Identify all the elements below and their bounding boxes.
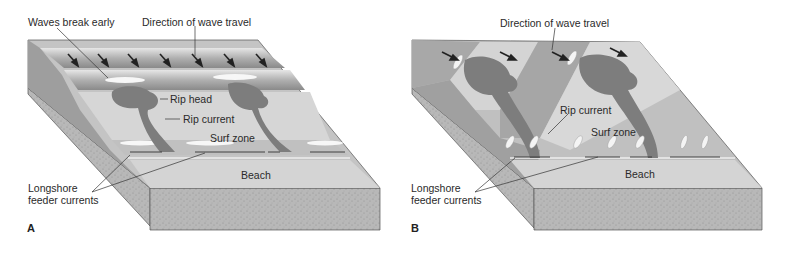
label-beach: Beach (241, 169, 271, 181)
panel-letter-a: A (27, 222, 35, 234)
label-longshore: Longshore (411, 182, 461, 194)
block-diagram-a (0, 0, 390, 254)
label-longshore: Longshore (28, 182, 78, 194)
block-diagram-b (390, 0, 787, 254)
label-rip-current: Rip current (183, 113, 234, 125)
label-rip-current: Rip current (560, 104, 611, 116)
label-surf-zone: Surf zone (591, 126, 636, 138)
panel-b-diagram: Direction of wave travel Rip current Sur… (390, 0, 787, 254)
label-feeder-currents: feeder currents (411, 194, 482, 206)
panel-letter-b: B (411, 222, 419, 234)
foam (105, 77, 145, 83)
label-waves-break-early: Waves break early (28, 16, 115, 28)
label-direction-of-wave-travel: Direction of wave travel (142, 16, 251, 28)
wave-band-2 (64, 70, 305, 90)
sand-front-face (534, 188, 762, 230)
label-beach: Beach (625, 168, 655, 180)
sand-front-face (150, 188, 380, 230)
label-surf-zone: Surf zone (210, 132, 255, 144)
label-feeder-currents: feeder currents (28, 194, 99, 206)
label-direction-of-wave-travel: Direction of wave travel (500, 17, 609, 29)
panel-a-diagram: Waves break early Direction of wave trav… (0, 0, 390, 254)
label-rip-head: Rip head (170, 93, 212, 105)
